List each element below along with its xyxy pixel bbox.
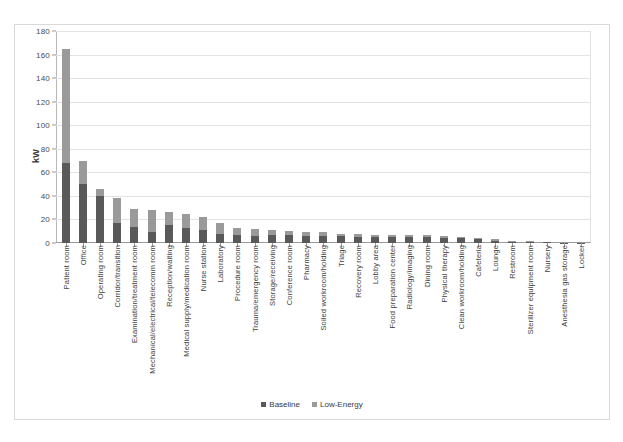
bar-stack[interactable] (113, 198, 121, 243)
bar-stack[interactable] (405, 235, 413, 243)
x-label-slot: Cafeteria (470, 243, 487, 383)
bar-stack[interactable] (148, 210, 156, 243)
bar-column[interactable] (384, 31, 401, 243)
bar-segment-low-energy[interactable] (130, 209, 138, 227)
bar-column[interactable] (229, 31, 246, 243)
x-label-slot: Lounge (487, 243, 504, 383)
bar-column[interactable] (452, 31, 469, 243)
x-label-slot: Medical supply/medication room (177, 243, 194, 383)
y-tick-label: 180 (36, 27, 50, 36)
bar-segment-low-energy[interactable] (199, 217, 207, 230)
bar-column[interactable] (195, 31, 212, 243)
bar-stack[interactable] (440, 236, 448, 243)
legend-item[interactable]: Baseline (261, 400, 300, 409)
legend-item[interactable]: Low-Energy (312, 400, 363, 409)
bar-segment-baseline[interactable] (113, 223, 121, 243)
bar-column[interactable] (143, 31, 160, 243)
bar-stack[interactable] (251, 229, 259, 243)
bar-column[interactable] (401, 31, 418, 243)
bar-column[interactable] (160, 31, 177, 243)
bar-segment-low-energy[interactable] (251, 229, 259, 236)
x-tick-label: Medical supply/medication room (181, 245, 190, 357)
bar-stack[interactable] (182, 214, 190, 243)
x-tick-label: Cafeteria (474, 245, 483, 277)
bar-stack[interactable] (199, 217, 207, 243)
bar-column[interactable] (212, 31, 229, 243)
bar-column[interactable] (298, 31, 315, 243)
bar-segment-baseline[interactable] (199, 230, 207, 243)
bar-stack[interactable] (388, 235, 396, 243)
bar-column[interactable] (57, 31, 74, 243)
bar-segment-low-energy[interactable] (96, 189, 104, 196)
bar-segment-baseline[interactable] (182, 228, 190, 243)
bar-segment-baseline[interactable] (268, 235, 276, 243)
y-axis-title: kW (31, 149, 41, 163)
bar-column[interactable] (109, 31, 126, 243)
bar-stack[interactable] (79, 161, 87, 243)
bar-column[interactable] (126, 31, 143, 243)
x-tick-label: Radiology/imaging (405, 245, 414, 309)
bar-segment-baseline[interactable] (302, 236, 310, 243)
bar-segment-low-energy[interactable] (233, 228, 241, 235)
bar-column[interactable] (418, 31, 435, 243)
bar-stack[interactable] (423, 235, 431, 243)
bar-segment-baseline[interactable] (96, 196, 104, 243)
bar-column[interactable] (315, 31, 332, 243)
bar-column[interactable] (246, 31, 263, 243)
bar-segment-low-energy[interactable] (216, 223, 224, 234)
bar-segment-low-energy[interactable] (148, 210, 156, 232)
bar-column[interactable] (177, 31, 194, 243)
bar-column[interactable] (470, 31, 487, 243)
bar-stack[interactable] (285, 231, 293, 243)
bar-column[interactable] (349, 31, 366, 243)
bar-column[interactable] (573, 31, 590, 243)
bar-segment-low-energy[interactable] (79, 161, 87, 185)
bar-column[interactable] (435, 31, 452, 243)
bar-segment-baseline[interactable] (319, 236, 327, 243)
bar-segment-baseline[interactable] (285, 235, 293, 243)
bar-segment-baseline[interactable] (233, 235, 241, 243)
bar-segment-baseline[interactable] (79, 184, 87, 243)
bar-column[interactable] (504, 31, 521, 243)
bar-segment-low-energy[interactable] (62, 49, 70, 163)
bar-stack[interactable] (371, 235, 379, 243)
bar-stack[interactable] (337, 234, 345, 243)
bar-stack[interactable] (216, 223, 224, 243)
x-tick-label: Trauma/emergency room (250, 245, 259, 332)
legend-label: Low-Energy (320, 400, 363, 409)
bar-stack[interactable] (354, 234, 362, 243)
x-label-slot: Reception/waiting (160, 243, 177, 383)
bar-column[interactable] (366, 31, 383, 243)
bar-column[interactable] (263, 31, 280, 243)
bar-segment-baseline[interactable] (165, 225, 173, 243)
bar-stack[interactable] (130, 209, 138, 243)
bar-column[interactable] (280, 31, 297, 243)
bar-segment-baseline[interactable] (251, 236, 259, 243)
x-label-slot: Storage/receiving (263, 243, 280, 383)
bar-stack[interactable] (302, 232, 310, 243)
bar-column[interactable] (74, 31, 91, 243)
x-label-slot: Locker (573, 243, 590, 383)
bar-segment-baseline[interactable] (130, 227, 138, 243)
x-label-slot: Physical therapy (435, 243, 452, 383)
bar-segment-baseline[interactable] (148, 232, 156, 243)
bar-stack[interactable] (62, 49, 70, 243)
bar-segment-baseline[interactable] (62, 163, 70, 243)
bar-segment-low-energy[interactable] (182, 214, 190, 228)
bar-stack[interactable] (233, 228, 241, 243)
bar-column[interactable] (555, 31, 572, 243)
bar-stack[interactable] (96, 189, 104, 243)
bar-column[interactable] (521, 31, 538, 243)
bar-stack[interactable] (319, 232, 327, 243)
x-tick-label: Corridor/transition (113, 245, 122, 307)
bar-column[interactable] (538, 31, 555, 243)
bar-stack[interactable] (268, 230, 276, 243)
bar-segment-low-energy[interactable] (165, 212, 173, 225)
bar-column[interactable] (487, 31, 504, 243)
bar-column[interactable] (332, 31, 349, 243)
bar-stack[interactable] (165, 212, 173, 243)
bar-segment-low-energy[interactable] (113, 198, 121, 223)
bar-segment-baseline[interactable] (216, 234, 224, 243)
bar-column[interactable] (91, 31, 108, 243)
bar-segment-baseline[interactable] (337, 236, 345, 243)
